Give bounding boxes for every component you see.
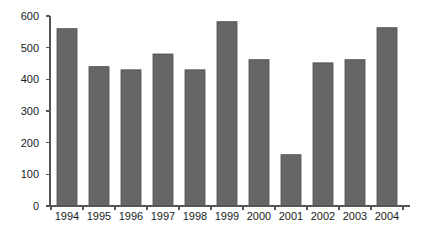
bar — [249, 60, 269, 206]
y-tick-label: 500 — [21, 42, 39, 54]
chart-canvas: 0100200300400500600 19941995199619971998… — [0, 0, 425, 238]
bar — [57, 29, 77, 206]
bar — [377, 28, 397, 206]
bar — [345, 60, 365, 206]
y-tick-label: 400 — [21, 73, 39, 85]
x-tick-label: 2004 — [375, 210, 399, 222]
bar — [89, 67, 109, 206]
x-tick-label: 2003 — [343, 210, 367, 222]
x-tick-label: 1999 — [215, 210, 239, 222]
bar — [313, 63, 333, 206]
x-tick-label: 1994 — [55, 210, 79, 222]
y-tick-label: 200 — [21, 137, 39, 149]
x-tick-label: 1997 — [151, 210, 175, 222]
x-tick-label: 1996 — [119, 210, 143, 222]
bar — [217, 22, 237, 206]
y-tick-label: 300 — [21, 105, 39, 117]
bar — [153, 54, 173, 206]
bar — [121, 70, 141, 206]
x-tick-label: 2000 — [247, 210, 271, 222]
bar — [281, 155, 301, 206]
x-tick-label: 1995 — [87, 210, 111, 222]
y-tick-label: 600 — [21, 10, 39, 22]
bar-chart: 0100200300400500600 19941995199619971998… — [0, 0, 425, 238]
y-tick-label: 0 — [33, 200, 39, 212]
y-tick-label: 100 — [21, 168, 39, 180]
x-tick-label: 2001 — [279, 210, 303, 222]
x-tick-label: 1998 — [183, 210, 207, 222]
x-tick-label: 2002 — [311, 210, 335, 222]
bar — [185, 70, 205, 206]
